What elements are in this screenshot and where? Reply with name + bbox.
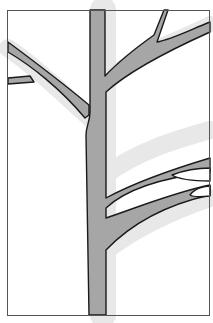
left-twig — [8, 76, 34, 84]
tree-branches-illustration — [0, 0, 213, 323]
